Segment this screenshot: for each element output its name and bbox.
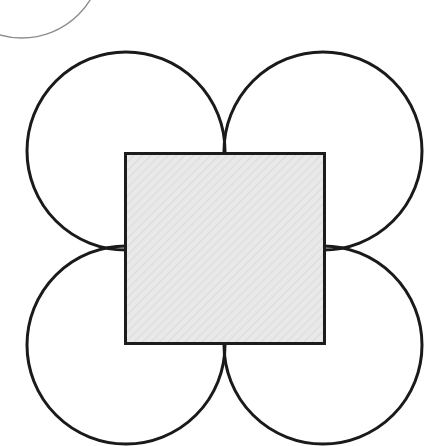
figure-canvas bbox=[0, 0, 443, 446]
shaded-square bbox=[125, 153, 324, 343]
geometry-diagram bbox=[0, 0, 443, 446]
